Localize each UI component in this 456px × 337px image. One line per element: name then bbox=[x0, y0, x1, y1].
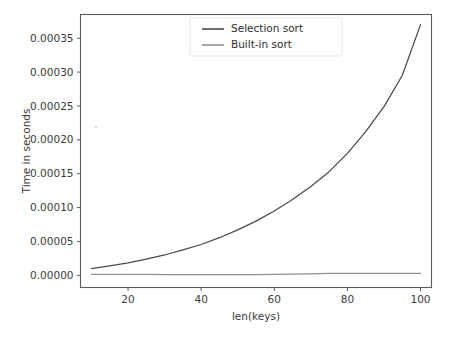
y-tick-label: 0.00035 bbox=[30, 32, 73, 44]
legend-label-0[interactable]: Selection sort bbox=[231, 22, 303, 34]
y-tick-label: 0.00010 bbox=[30, 201, 73, 213]
y-axis-label: Time in seconds bbox=[20, 109, 32, 195]
y-tick-label: 0.00030 bbox=[30, 66, 73, 78]
y-tick-label: 0.00025 bbox=[30, 100, 73, 112]
legend-label-1[interactable]: Built-in sort bbox=[231, 38, 292, 50]
figure-canvas: 0.000000.000050.000100.000150.000200.000… bbox=[0, 0, 456, 337]
legend[interactable]: Selection sortBuilt-in sort bbox=[190, 18, 342, 56]
y-tick-label: 0.00020 bbox=[30, 133, 73, 145]
x-tick-label: 80 bbox=[341, 293, 354, 305]
image-artifact-speck bbox=[95, 126, 97, 128]
y-tick-label: 0.00000 bbox=[30, 269, 73, 281]
x-axis-label: len(keys) bbox=[232, 310, 280, 322]
x-tick-label: 20 bbox=[121, 293, 134, 305]
x-tick-label: 100 bbox=[411, 293, 431, 305]
line-chart: 0.000000.000050.000100.000150.000200.000… bbox=[0, 0, 456, 337]
y-tick-label: 0.00015 bbox=[30, 167, 73, 179]
x-tick-label: 60 bbox=[268, 293, 281, 305]
y-tick-label: 0.00005 bbox=[30, 235, 73, 247]
x-tick-label: 40 bbox=[194, 293, 207, 305]
